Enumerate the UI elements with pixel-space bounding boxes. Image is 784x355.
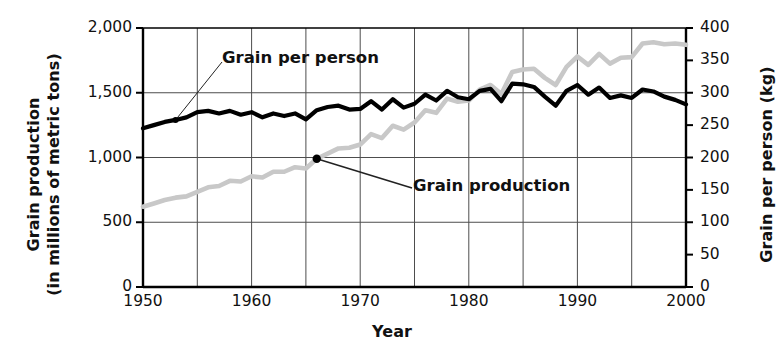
annotation-grain-per-person: Grain per person xyxy=(222,48,379,67)
plot-area xyxy=(0,0,784,355)
annotation-marker-dot xyxy=(173,117,179,123)
chart-figure: Grain production (in millions of metric … xyxy=(0,0,784,355)
annotation-leader-line xyxy=(317,159,412,188)
annotation-marker-dot xyxy=(313,155,321,163)
annotation-grain-production: Grain production xyxy=(413,176,570,195)
